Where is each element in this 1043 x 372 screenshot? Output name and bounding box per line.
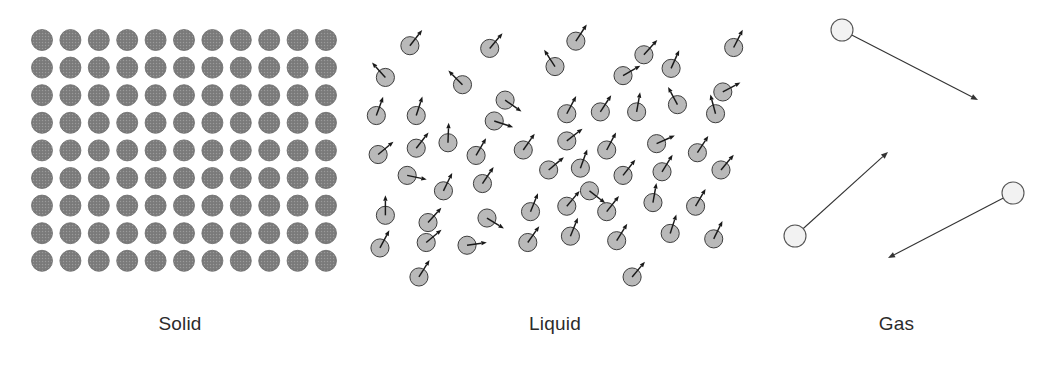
solid-particle <box>202 85 223 106</box>
solid-particle <box>32 85 53 106</box>
solid-particle <box>60 57 81 78</box>
solid-particle <box>259 195 280 216</box>
liquid-particle <box>410 260 430 286</box>
solid-particle <box>174 140 195 161</box>
solid-particle <box>316 30 337 51</box>
solid-particle <box>202 112 223 133</box>
solid-particle <box>32 112 53 133</box>
liquid-particle <box>580 182 605 203</box>
liquid-particle <box>401 30 422 55</box>
solid-particle <box>88 195 109 216</box>
solid-particle <box>145 30 166 51</box>
liquid-particle <box>372 63 394 87</box>
liquid-particle <box>662 50 680 77</box>
solid-particle <box>230 250 251 271</box>
solid-particle <box>117 223 138 244</box>
solid-particle <box>230 57 251 78</box>
liquid-particle <box>369 142 393 164</box>
solid-particle <box>174 112 195 133</box>
liquid-particle <box>417 230 441 252</box>
solid-particle <box>145 195 166 216</box>
solid-particle <box>32 223 53 244</box>
gas-particle <box>831 19 978 100</box>
solid-particle <box>287 168 308 189</box>
solid-particle <box>117 168 138 189</box>
solid-particle <box>174 195 195 216</box>
solid-particle <box>230 140 251 161</box>
solid-particle <box>202 168 223 189</box>
solid-particle <box>117 195 138 216</box>
liquid-particle <box>519 226 540 251</box>
solid-particle <box>88 250 109 271</box>
liquid-particle <box>367 97 385 125</box>
solid-particle <box>230 195 251 216</box>
solid-particle <box>88 112 109 133</box>
liquid-particle <box>434 173 452 200</box>
solid-particle <box>60 168 81 189</box>
liquid-particle <box>668 87 686 114</box>
solid-particle <box>230 112 251 133</box>
solid-particle <box>145 112 166 133</box>
liquid-particle <box>371 230 389 257</box>
liquid-particle <box>628 92 646 121</box>
solid-particle <box>88 168 109 189</box>
solid-particle <box>60 223 81 244</box>
solid-particle <box>287 195 308 216</box>
liquid-particle <box>467 138 486 164</box>
solid-particle <box>174 250 195 271</box>
solid-particle <box>60 250 81 271</box>
liquid-particle <box>614 66 640 85</box>
liquid-particle <box>398 166 427 184</box>
solid-particle <box>174 30 195 51</box>
liquid-particle <box>623 262 645 286</box>
liquid-particle <box>635 40 657 64</box>
solid-particle <box>259 30 280 51</box>
liquid-particle <box>481 33 503 57</box>
panel-label-gas: Gas <box>750 314 1043 333</box>
solid-particle <box>316 57 337 78</box>
liquid-particle <box>561 218 579 246</box>
solid-particle <box>287 85 308 106</box>
liquid-particle <box>725 30 743 57</box>
solid-particle <box>316 223 337 244</box>
liquid-particle <box>496 91 521 112</box>
solid-particle <box>32 250 53 271</box>
liquid-particle <box>653 155 673 181</box>
liquid-particle <box>705 221 723 248</box>
panel-label-solid: Solid <box>0 314 360 333</box>
solid-particle <box>32 195 53 216</box>
liquid-particle <box>458 236 487 254</box>
liquid-particle <box>407 132 428 157</box>
solid-particle <box>174 223 195 244</box>
liquid-particle <box>608 224 628 250</box>
liquid-particle <box>439 123 457 152</box>
solid-particle <box>32 140 53 161</box>
solid-particle <box>60 85 81 106</box>
solid-particle <box>88 223 109 244</box>
solid-particle <box>32 57 53 78</box>
panel-label-liquid: Liquid <box>360 314 750 333</box>
liquid-particle <box>648 135 675 153</box>
solid-particle <box>117 85 138 106</box>
solid-particle <box>259 223 280 244</box>
solid-particle <box>316 112 337 133</box>
liquid-particle <box>544 50 564 76</box>
solid-particle <box>316 250 337 271</box>
solid-particle <box>316 195 337 216</box>
solid-particle <box>174 168 195 189</box>
solid-particle <box>145 57 166 78</box>
solid-particle <box>287 250 308 271</box>
gas-particle <box>888 182 1024 258</box>
solid-particle <box>60 140 81 161</box>
solid-particle <box>60 195 81 216</box>
solid-particle <box>230 85 251 106</box>
solid-particle <box>117 57 138 78</box>
solid-particle <box>145 168 166 189</box>
panel-solid: Solid <box>0 0 360 372</box>
solid-particle <box>117 112 138 133</box>
solid-particle <box>259 112 280 133</box>
liquid-particle <box>540 157 564 179</box>
solid-particle <box>287 140 308 161</box>
solid-particle <box>32 168 53 189</box>
liquid-particle <box>598 132 616 159</box>
